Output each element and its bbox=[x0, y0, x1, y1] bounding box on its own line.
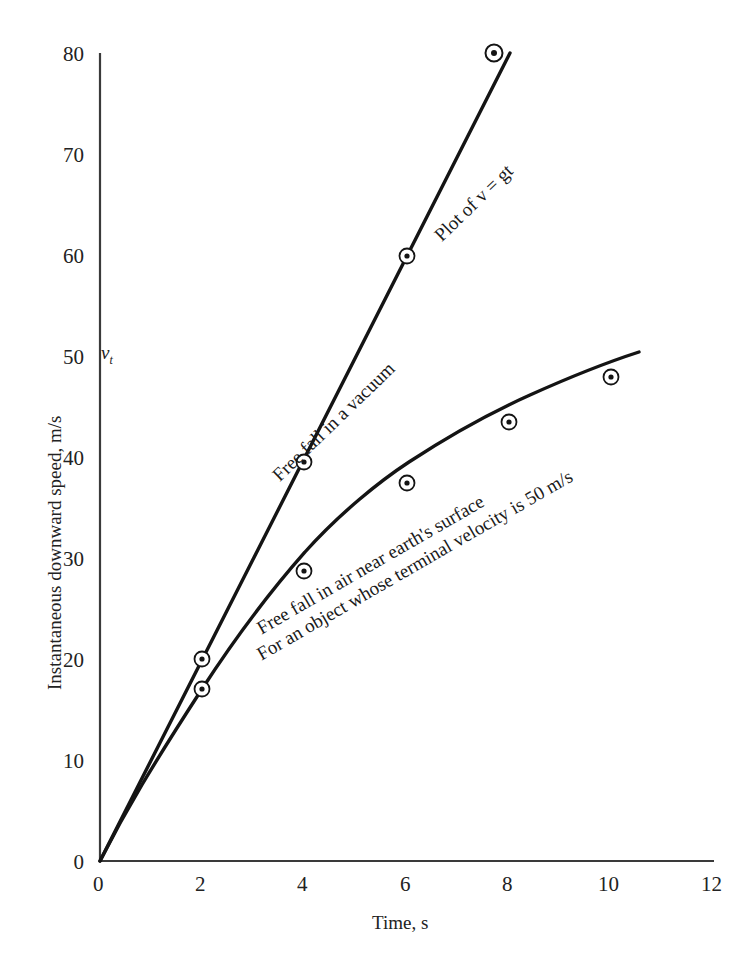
data-point-marker bbox=[195, 682, 210, 697]
data-point-marker bbox=[400, 249, 415, 264]
figure-container: 80 70 60 50 40 30 20 10 0 0 2 4 6 8 10 1… bbox=[0, 0, 746, 955]
y-tick-label: 10 bbox=[40, 749, 84, 774]
vt-subscript: t bbox=[109, 353, 112, 367]
y-tick-label: 0 bbox=[40, 850, 84, 875]
data-point-marker bbox=[502, 415, 517, 430]
x-tick-label: 0 bbox=[93, 872, 104, 897]
y-tick-label: 50 bbox=[40, 345, 84, 370]
y-axis-title: Instantaneous downward speed, m/s bbox=[44, 416, 66, 690]
chart-svg bbox=[0, 0, 746, 955]
data-point-marker bbox=[604, 370, 619, 385]
x-tick-label: 4 bbox=[297, 872, 308, 897]
data-point-marker bbox=[486, 45, 503, 62]
data-point-marker bbox=[400, 476, 415, 491]
y-tick-label: 60 bbox=[40, 244, 84, 269]
data-point-marker bbox=[297, 564, 312, 579]
terminal-velocity-label: vt bbox=[101, 342, 113, 368]
series-air-curve bbox=[100, 352, 639, 861]
y-tick-label: 80 bbox=[40, 42, 84, 67]
y-tick-label: 70 bbox=[40, 143, 84, 168]
x-tick-label: 6 bbox=[400, 872, 411, 897]
x-axis-title: Time, s bbox=[372, 912, 428, 934]
x-tick-label: 8 bbox=[502, 872, 513, 897]
data-point-marker bbox=[195, 652, 210, 667]
x-tick-label: 12 bbox=[701, 872, 722, 897]
x-tick-label: 2 bbox=[195, 872, 206, 897]
x-tick-label: 10 bbox=[598, 872, 619, 897]
